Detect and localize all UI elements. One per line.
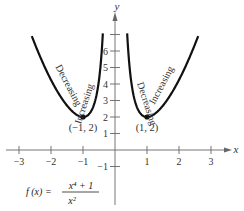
function-graph: −3−2−1123−1123456 (−1, 2)(1, 2) Decreasi…	[0, 0, 244, 211]
y-axis-label: y	[114, 0, 120, 12]
y-tick-label: 3	[103, 95, 108, 106]
ticks: −3−2−1123−1123456	[14, 35, 214, 173]
formula: f (x) = x⁴ + 1 x²	[26, 180, 99, 206]
formula-denominator: x²	[67, 195, 76, 206]
y-tick-label: −1	[97, 161, 108, 172]
x-axis-label: x	[233, 143, 239, 155]
y-tick-label: 5	[103, 62, 108, 73]
x-axis-arrow	[224, 148, 232, 153]
x-tick-label: 2	[177, 156, 182, 167]
y-axis-arrow	[113, 12, 118, 21]
point-label: (−1, 2)	[69, 122, 98, 134]
x-tick-label: 1	[145, 156, 150, 167]
axes	[6, 12, 232, 205]
x-tick-label: −3	[14, 156, 25, 167]
y-tick-label: 6	[103, 46, 108, 57]
y-tick-label: 1	[103, 128, 108, 139]
y-tick-label: 2	[103, 112, 108, 123]
formula-lhs: f (x) =	[26, 186, 52, 198]
y-tick-label: 4	[103, 79, 108, 90]
x-tick-label: 3	[209, 156, 214, 167]
formula-numerator: x⁴ + 1	[68, 180, 94, 191]
x-tick-label: −2	[46, 156, 57, 167]
x-tick-label: −1	[78, 156, 89, 167]
increasing-label: Increasing	[146, 64, 175, 106]
